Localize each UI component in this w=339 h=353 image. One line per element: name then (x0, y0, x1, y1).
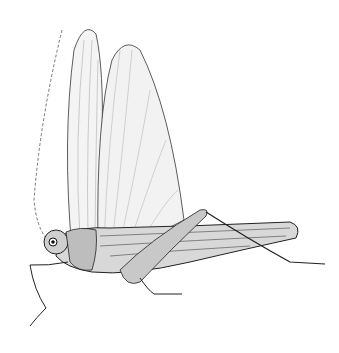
grasshopper-illustration (0, 0, 339, 353)
illustration-canvas (0, 0, 339, 353)
